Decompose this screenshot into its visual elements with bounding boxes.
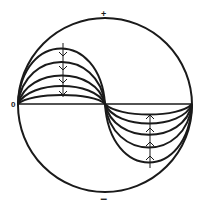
down-arrows: [59, 43, 67, 97]
lower-loops: [105, 104, 192, 163]
up-arrows: [146, 114, 154, 168]
minus-label: −: [100, 193, 107, 205]
plus-label: +: [101, 10, 106, 19]
upper-loops: [18, 49, 105, 105]
diagram-canvas: [0, 0, 204, 211]
zero-label: 0: [11, 101, 15, 109]
